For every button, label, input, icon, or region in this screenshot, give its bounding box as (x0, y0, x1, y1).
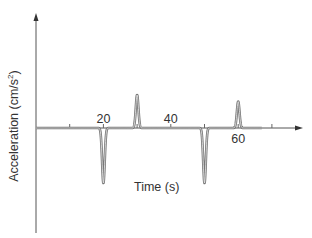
chart: 204060 Time (s) Acceleration (cm/s2) (0, 0, 312, 238)
x-tick-label: 40 (164, 112, 178, 126)
acceleration-curve-highlight (36, 95, 262, 183)
y-axis (34, 13, 39, 233)
x-axis-arrow-icon (295, 126, 303, 131)
y-axis-arrow-icon (34, 13, 39, 21)
x-axis-label: Time (s) (134, 180, 179, 194)
acceleration-curve (36, 95, 262, 183)
x-tick-label: 20 (96, 112, 110, 126)
x-tick-label: 60 (231, 132, 245, 146)
y-axis-label: Acceleration (cm/s2) (6, 70, 21, 181)
